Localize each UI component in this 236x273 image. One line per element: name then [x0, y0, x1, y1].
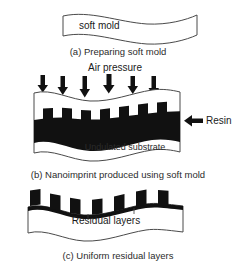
air-pressure-arrow-icon: [80, 76, 91, 98]
undulated-substrate-label: Undulated substrate: [85, 142, 166, 152]
panel-a-group: soft mold: [63, 14, 197, 44]
panel-b-caption: (b) Nanoimprint produced using soft mold: [31, 169, 205, 180]
resin-arrow-icon: [184, 115, 203, 127]
air-pressure-arrow-icon: [38, 75, 49, 93]
panel-a-caption: (a) Preparing soft mold: [70, 46, 167, 57]
panel-b-group: Undulated substrate: [34, 89, 180, 161]
panel-c-group: Residual layers: [28, 189, 183, 241]
panel-c-caption: (c) Uniform residual layers: [63, 250, 174, 261]
resin-label: Resin: [206, 115, 232, 126]
residual-layers-label: Residual layers: [72, 215, 140, 226]
air-pressure-label: Air pressure: [88, 62, 142, 73]
resin-callout: Resin: [184, 115, 232, 127]
nanoimprint-process-figure: soft mold (a) Preparing soft mold Air pr…: [0, 0, 236, 273]
air-pressure-arrow-icon: [58, 76, 69, 95]
air-pressure-arrow-icon: [128, 76, 139, 94]
soft-mold-label: soft mold: [79, 20, 120, 31]
air-pressure-arrow-icon: [103, 74, 115, 94]
